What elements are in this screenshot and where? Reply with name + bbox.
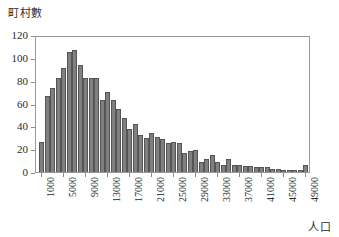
histogram-bar — [160, 139, 165, 172]
y-axis-tick-label: 120 — [12, 29, 29, 41]
x-axis-tick-label: 25000 — [177, 177, 188, 202]
histogram-bar — [298, 170, 303, 172]
histogram-bar — [100, 100, 105, 172]
histogram-bar — [122, 118, 127, 172]
histogram-bar — [226, 159, 231, 172]
x-axis-tick-label: 9000 — [89, 177, 100, 197]
y-axis-title: 町村數 — [8, 4, 43, 20]
histogram-bar — [149, 133, 154, 172]
histogram-bar — [83, 78, 88, 172]
histogram-bar — [182, 153, 187, 172]
histogram-bar — [248, 166, 253, 172]
histogram-bar — [204, 159, 209, 172]
histogram-bar — [78, 65, 83, 172]
x-axis-tick-label: 49000 — [309, 177, 320, 202]
histogram-bar — [144, 138, 149, 172]
histogram-bar — [243, 166, 248, 172]
histogram-screenshot: 町村數 020406080100120 10005000900013000170… — [0, 0, 339, 237]
x-axis-tick-label: 41000 — [265, 177, 276, 202]
histogram-bar — [133, 124, 138, 172]
histogram-bar — [166, 143, 171, 172]
y-axis-tick-label: 60 — [17, 98, 28, 110]
histogram-bar — [89, 78, 94, 172]
x-axis-tick-label: 29000 — [199, 177, 210, 202]
y-axis-tick-label: 80 — [17, 75, 28, 87]
histogram-bar — [138, 135, 143, 172]
histogram-bar — [94, 78, 99, 172]
histogram-bar — [116, 109, 121, 172]
y-axis-tick-label: 100 — [12, 52, 29, 64]
x-axis-tick-label: 17000 — [133, 177, 144, 202]
histogram-bar — [237, 165, 242, 172]
histogram-bar — [292, 170, 297, 172]
y-axis-tick-label: 0 — [23, 166, 29, 178]
histogram-bar — [221, 165, 226, 172]
histogram-bar — [265, 167, 270, 172]
x-axis-tick-label: 1000 — [45, 177, 56, 197]
x-axis-labels: 1000500090001300017000210002500029000330… — [35, 177, 310, 217]
histogram-bar — [50, 88, 55, 172]
histogram-bar — [72, 50, 77, 172]
x-axis-tick-label: 5000 — [67, 177, 78, 197]
y-axis-tick-label: 40 — [17, 120, 28, 132]
histogram-bar — [259, 167, 264, 172]
histogram-bar — [177, 143, 182, 172]
histogram-bar — [127, 129, 132, 172]
histogram-bar — [254, 167, 259, 172]
histogram-bar — [155, 137, 160, 172]
histogram-bar — [303, 165, 308, 172]
histogram-bar — [171, 142, 176, 172]
histogram-bar — [287, 170, 292, 172]
x-axis-tick-label: 37000 — [243, 177, 254, 202]
histogram-bar — [105, 92, 110, 172]
bars-layer — [36, 37, 309, 172]
histogram-bar — [111, 100, 116, 172]
histogram-bar — [193, 150, 198, 172]
histogram-bar — [232, 165, 237, 172]
x-axis-title: 人口 — [308, 218, 331, 234]
histogram-bar — [67, 52, 72, 172]
y-axis-tick-label: 20 — [17, 143, 28, 155]
histogram-bar — [281, 170, 286, 172]
x-axis-tick-label: 45000 — [287, 177, 298, 202]
histogram-bar — [56, 78, 61, 172]
x-axis-tick-label: 21000 — [155, 177, 166, 202]
y-axis: 020406080100120 — [0, 36, 35, 173]
plot-area — [35, 36, 310, 173]
histogram-bar — [188, 151, 193, 172]
x-axis-tick-label: 33000 — [221, 177, 232, 202]
histogram-bar — [199, 162, 204, 172]
histogram-bar — [210, 155, 215, 172]
histogram-bar — [61, 68, 66, 172]
histogram-bar — [276, 169, 281, 172]
histogram-bar — [270, 169, 275, 172]
histogram-bar — [39, 142, 44, 172]
histogram-bar — [215, 162, 220, 172]
x-axis-tick-label: 13000 — [111, 177, 122, 202]
histogram-bar — [45, 96, 50, 172]
